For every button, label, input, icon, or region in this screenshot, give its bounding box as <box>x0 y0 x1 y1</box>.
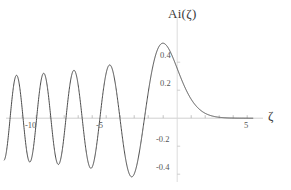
y-tick-label-minus0-2: -0.2 <box>156 134 169 144</box>
x-axis-label: ζ <box>268 108 273 124</box>
y-tick-label-minus0-4: -0.4 <box>156 162 169 172</box>
airy-curve <box>4 43 253 177</box>
x-tick-label-minus5: -5 <box>96 120 103 130</box>
y-tick-label-0-2: 0.2 <box>160 78 171 88</box>
y-tick-label-0-4: 0.4 <box>160 50 171 60</box>
plot-canvas <box>0 0 291 190</box>
plot-title: Ai(ζ) <box>168 6 197 22</box>
airy-function-plot: Ai(ζ) ζ -10 -5 5 0.4 0.2 -0.2 -0.4 <box>0 0 291 190</box>
x-tick-label-plus5: 5 <box>244 120 248 130</box>
x-tick-label-minus10: -10 <box>25 120 36 130</box>
